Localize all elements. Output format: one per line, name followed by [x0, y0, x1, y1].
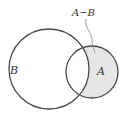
label-set-a: A: [96, 65, 105, 78]
venn-diagram: A−B B A: [0, 0, 125, 119]
venn-svg: A−B B A: [0, 0, 125, 119]
label-a-minus-b: A−B: [71, 7, 95, 18]
label-set-b: B: [9, 64, 18, 77]
